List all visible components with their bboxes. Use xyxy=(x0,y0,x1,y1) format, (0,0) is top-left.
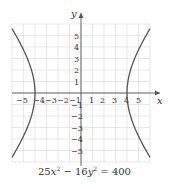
y-axis-arrow-icon xyxy=(79,13,84,18)
y-tick-label: −2 xyxy=(71,112,83,121)
x-tick-label: 2 xyxy=(100,96,105,105)
y-tick-label: 2 xyxy=(74,66,79,75)
y-tick-label: 4 xyxy=(74,43,79,52)
y-tick-label: −3 xyxy=(71,124,83,133)
x-tick-label: −3 xyxy=(45,96,57,105)
axes xyxy=(12,13,160,166)
y-tick-label: 5 xyxy=(74,32,79,41)
y-tick-label: 3 xyxy=(74,55,79,64)
x-tick-label: −5 xyxy=(16,96,28,105)
y-axis-label: y xyxy=(70,8,77,19)
y-tick-label: −1 xyxy=(71,101,83,110)
y-tick-label: −4 xyxy=(71,135,83,144)
x-tick-label: 1 xyxy=(89,96,94,105)
x-axis-label: x xyxy=(157,95,163,106)
y-tick-label: 1 xyxy=(74,78,79,87)
hyperbola-plot: −5−4−3−2−11234554321−1−2−3−4−5 x y xyxy=(0,0,169,189)
x-tick-label: 3 xyxy=(112,96,117,105)
equation-caption: 25x2 − 16y2 = 400 xyxy=(0,165,169,177)
x-tick-label: −2 xyxy=(57,96,69,105)
y-tick-label: −5 xyxy=(71,147,83,156)
x-tick-label: 5 xyxy=(136,96,141,105)
